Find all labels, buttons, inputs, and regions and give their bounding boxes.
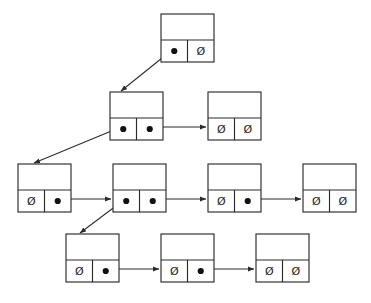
list-node[interactable] (113, 164, 166, 212)
pointer-dot-right (198, 268, 204, 274)
list-node[interactable] (110, 92, 163, 140)
null-symbol-right: Ø (196, 45, 205, 58)
pointer-diagram-canvas: ØØØØØØØØØØØ (0, 0, 371, 303)
list-node[interactable]: Ø (66, 234, 119, 282)
list-node[interactable]: Ø (161, 234, 214, 282)
list-node[interactable]: ØØ (208, 92, 261, 140)
null-symbol-left: Ø (312, 195, 321, 208)
pointer-dot-left (171, 48, 177, 54)
null-symbol-left: Ø (27, 195, 36, 208)
null-symbol-left: Ø (217, 123, 226, 136)
pointer-dot-right (103, 268, 109, 274)
list-node[interactable]: ØØ (303, 164, 356, 212)
null-symbol-left: Ø (217, 195, 226, 208)
pointer-dot-right (55, 198, 61, 204)
null-symbol-left: Ø (75, 265, 84, 278)
null-symbol-left: Ø (170, 265, 179, 278)
pointer-dot-left (120, 126, 126, 132)
null-symbol-right: Ø (338, 195, 347, 208)
nodes-layer: ØØØØØØØØØØØ (18, 14, 356, 282)
pointer-dot-left (123, 198, 129, 204)
list-node[interactable]: Ø (18, 164, 71, 212)
pointer-dot-right (147, 126, 153, 132)
list-node[interactable]: Ø (208, 164, 261, 212)
pointer-dot-right (150, 198, 156, 204)
null-symbol-right: Ø (243, 123, 252, 136)
null-symbol-right: Ø (291, 265, 300, 278)
null-symbol-left: Ø (265, 265, 274, 278)
list-node[interactable]: Ø (161, 14, 214, 62)
pointer-dot-right (245, 198, 251, 204)
list-node[interactable]: ØØ (256, 234, 309, 282)
